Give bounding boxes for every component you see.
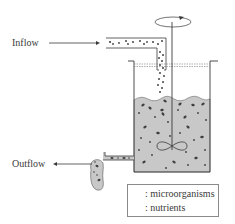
inflow-label: Inflow — [12, 38, 39, 48]
outflow-label: Outflow — [12, 159, 45, 169]
outflow-arrow — [53, 162, 92, 166]
legend: : microorganisms : nutrients — [127, 184, 219, 217]
bioreactor-diagram: Inflow Outflow : microorganisms : nutrie… — [0, 0, 235, 224]
inflow-pipe — [106, 38, 166, 70]
legend-item-microorganisms: : microorganisms — [145, 189, 215, 199]
inflow-arrow — [49, 41, 100, 45]
tank — [128, 61, 218, 172]
legend-item-nutrients: : nutrients — [145, 203, 185, 213]
